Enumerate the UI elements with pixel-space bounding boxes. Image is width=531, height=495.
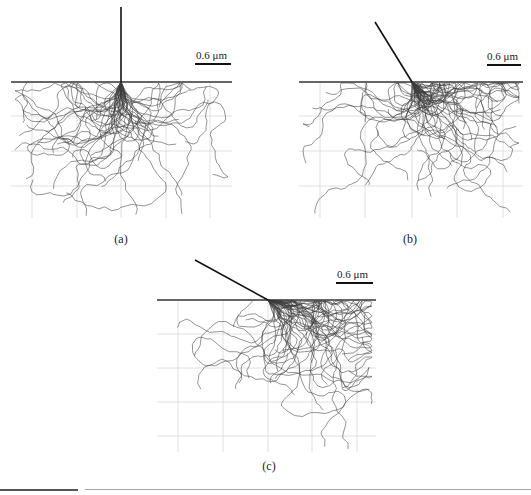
incident-beam-line xyxy=(195,260,268,300)
footer-rule-short xyxy=(0,489,78,491)
panel-c: 0.6 μm (c) xyxy=(0,0,531,495)
trajectory-plot-c xyxy=(0,0,531,495)
caption-c: (c) xyxy=(249,459,289,474)
electron-trajectories xyxy=(178,300,372,449)
scale-bar-label-c: 0.6 μm xyxy=(337,268,368,280)
footer-rule-long xyxy=(85,489,531,490)
